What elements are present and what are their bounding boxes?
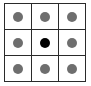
grid-cell-r1-c1[interactable] bbox=[32, 30, 59, 56]
grid-cell-r0-c2[interactable] bbox=[59, 4, 86, 30]
gray-dot-icon bbox=[67, 38, 77, 48]
grid-cell-r1-c2[interactable] bbox=[59, 30, 86, 56]
gray-dot-icon bbox=[13, 12, 23, 22]
gray-dot-icon bbox=[40, 64, 50, 74]
grid-cell-r0-c1[interactable] bbox=[32, 4, 59, 30]
black-dot-icon bbox=[40, 38, 50, 48]
grid-cell-r2-c0[interactable] bbox=[5, 56, 32, 82]
gray-dot-icon bbox=[13, 64, 23, 74]
grid-cell-r2-c2[interactable] bbox=[59, 56, 86, 82]
grid-cell-r1-c0[interactable] bbox=[5, 30, 32, 56]
gray-dot-icon bbox=[67, 64, 77, 74]
gray-dot-icon bbox=[13, 38, 23, 48]
gray-dot-icon bbox=[67, 12, 77, 22]
dot-grid bbox=[4, 3, 86, 82]
grid-cell-r2-c1[interactable] bbox=[32, 56, 59, 82]
gray-dot-icon bbox=[40, 12, 50, 22]
grid-cell-r0-c0[interactable] bbox=[5, 4, 32, 30]
